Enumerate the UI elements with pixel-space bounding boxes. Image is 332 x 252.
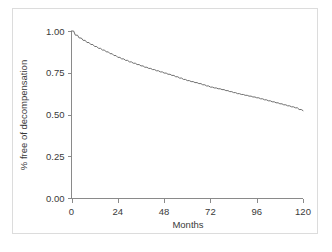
- y-tick-label: 0.75: [46, 67, 65, 78]
- x-axis: 024487296120: [69, 199, 311, 218]
- x-axis-title: Months: [172, 219, 203, 230]
- y-tick-label: 0.25: [46, 151, 65, 162]
- x-tick-label: 48: [159, 206, 170, 217]
- x-tick-group: 024487296120: [69, 199, 311, 217]
- survival-chart: 0.000.250.500.751.00 024487296120 Months…: [13, 9, 317, 233]
- survival-curve-line: [72, 31, 304, 111]
- x-tick-label: 120: [295, 206, 311, 217]
- y-axis-title: % free of decompensation: [18, 60, 29, 170]
- y-axis: 0.000.250.500.751.00: [46, 26, 72, 204]
- x-tick-label: 24: [113, 206, 124, 217]
- caption-strip: [14, 241, 324, 250]
- figure-root: 0.000.250.500.751.00 024487296120 Months…: [0, 0, 332, 252]
- y-tick-group: 0.000.250.500.751.00: [46, 26, 72, 204]
- x-tick-label: 72: [205, 206, 216, 217]
- x-tick-label: 96: [251, 206, 262, 217]
- x-tick-label: 0: [69, 206, 74, 217]
- y-tick-label: 0.00: [46, 193, 65, 204]
- y-tick-label: 0.50: [46, 109, 65, 120]
- y-tick-label: 1.00: [46, 26, 65, 37]
- figure-frame: 0.000.250.500.751.00 024487296120 Months…: [12, 8, 318, 234]
